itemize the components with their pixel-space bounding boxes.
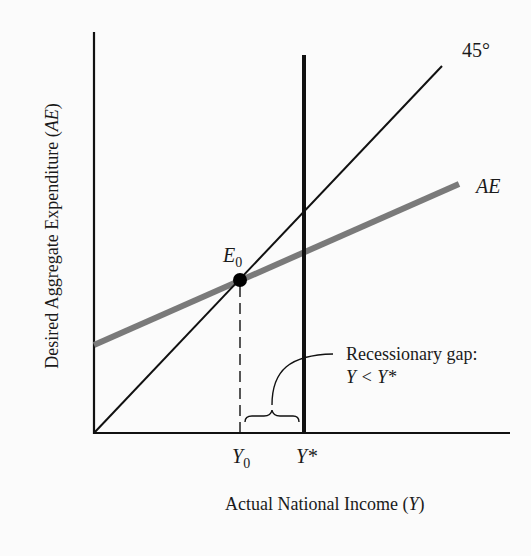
diagram-canvas xyxy=(0,0,531,556)
ystar-tick-label: Y* xyxy=(296,446,317,466)
equilibrium-label-letter: E xyxy=(223,244,235,266)
y-axis-label-close: ) xyxy=(42,103,62,109)
equilibrium-point xyxy=(233,273,247,287)
y-axis-label: Desired Aggregate Expenditure (AE) xyxy=(42,103,63,368)
y0-tick-subscript: 0 xyxy=(243,456,250,471)
forty-five-degree-label: 45° xyxy=(462,40,490,60)
y0-tick-letter: Y xyxy=(232,445,243,467)
equilibrium-label-subscript: 0 xyxy=(235,255,242,270)
gap-brace xyxy=(245,410,299,422)
y-axis-label-symbol: AE xyxy=(42,109,62,131)
recessionary-gap-annotation-condition: Y < Y* xyxy=(346,368,396,386)
x-axis-label-close: ) xyxy=(418,494,424,514)
recessionary-gap-annotation-title: Recessionary gap: xyxy=(346,345,477,363)
aggregate-expenditure-diagram: Desired Aggregate Expenditure (AE) Actua… xyxy=(0,0,531,556)
x-axis-label-symbol: Y xyxy=(408,494,418,514)
equilibrium-label: E0 xyxy=(223,245,242,265)
x-axis-label-text: Actual National Income ( xyxy=(225,494,408,514)
y0-tick-label: Y0 xyxy=(232,446,250,466)
y-axis-label-text: Desired Aggregate Expenditure ( xyxy=(42,131,62,368)
x-axis-label: Actual National Income (Y) xyxy=(225,494,424,515)
ae-line-label: AE xyxy=(476,176,500,196)
ae-line xyxy=(94,184,459,345)
